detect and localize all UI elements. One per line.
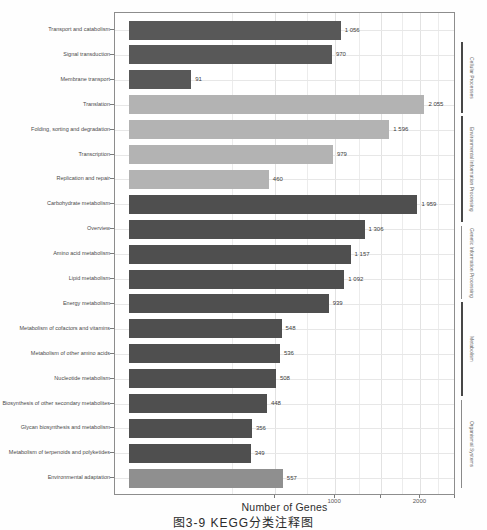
category-axis-tick [110, 178, 114, 179]
bar [129, 145, 333, 164]
category-label: Energy metabolism [0, 300, 110, 306]
bar-value-label: 460 [273, 176, 283, 183]
category-label: Environmental adaptation [0, 474, 110, 480]
category-label: Signal transduction [0, 51, 110, 57]
category-axis-tick [110, 427, 114, 428]
bar [129, 294, 329, 313]
bar-value-label: 91 [195, 76, 202, 83]
category-axis-tick [110, 79, 114, 80]
bar [129, 220, 365, 239]
category-label: Amino acid metabolism [0, 250, 110, 256]
category-label: Replication and repair [0, 175, 110, 181]
group-bracket-label: Cellular Processes [466, 42, 478, 113]
bar-value-label: 1 157 [355, 251, 370, 258]
bar-value-label: 1 092 [348, 276, 363, 283]
bar-value-label: 356 [256, 425, 266, 432]
category-label: Nucleotide metabolism [0, 375, 110, 381]
category-axis-tick [110, 29, 114, 30]
category-label: Metabolism of terpenoids and polyketides [0, 449, 110, 455]
bar [129, 369, 276, 388]
figure-caption: 图3-9 KEGG分类注释图 [0, 513, 487, 530]
category-label: Lipid metabolism [0, 275, 110, 281]
group-bracket-line [461, 400, 462, 488]
group-bracket-line [461, 302, 463, 396]
bar-value-label: 548 [286, 325, 296, 332]
bar-value-label: 536 [284, 350, 294, 357]
bar [129, 70, 191, 89]
bar [129, 419, 252, 438]
group-bracket-label: Metabolism [466, 302, 478, 396]
bar-value-label: 448 [271, 400, 281, 407]
bar-value-label: 508 [280, 375, 290, 382]
group-bracket-label: Genetic Information Processing [466, 226, 478, 299]
category-axis-tick [110, 278, 114, 279]
bar-value-label: 979 [337, 151, 347, 158]
category-axis-tick [110, 129, 114, 130]
category-label: Translation [0, 101, 110, 107]
category-label: Transcription [0, 151, 110, 157]
category-label: Membrane transport [0, 76, 110, 82]
bar [129, 195, 417, 214]
category-axis-tick [110, 378, 114, 379]
group-bracket-line [461, 42, 463, 113]
category-axis-tick [110, 353, 114, 354]
bar [129, 170, 269, 189]
bar-value-label: 349 [255, 450, 265, 457]
category-axis-tick [110, 154, 114, 155]
group-bracket-label: Environmental Information Processing [466, 116, 478, 222]
category-axis-tick [110, 303, 114, 304]
category-label: Folding, sorting and degradation [0, 126, 110, 132]
x-axis-tick [274, 495, 275, 498]
bar [129, 469, 283, 488]
category-axis-tick [110, 203, 114, 204]
category-axis-tick [110, 328, 114, 329]
bar [129, 444, 251, 463]
category-label: Transport and catabolism [0, 26, 110, 32]
category-axis-tick [110, 104, 114, 105]
bar [129, 45, 332, 64]
bar [129, 21, 341, 40]
bar [129, 270, 344, 289]
group-bracket-line [461, 116, 463, 222]
group-bracket-line [461, 226, 462, 299]
bar-value-label: 970 [336, 51, 346, 58]
category-label: Metabolism of cofactors and vitamins [0, 325, 110, 331]
bar-value-label: 2 055 [428, 101, 443, 108]
bar [129, 120, 389, 139]
category-axis-tick [110, 228, 114, 229]
bar-value-label: 1 056 [345, 27, 360, 34]
category-axis-tick [110, 54, 114, 55]
category-label: Metabolism of other amino acids [0, 350, 110, 356]
category-label: Carbohydrate metabolism [0, 200, 110, 206]
bar [129, 344, 280, 363]
bar [129, 319, 282, 338]
x-axis-tick [454, 495, 455, 498]
bar [129, 95, 424, 114]
bar-value-label: 1 959 [421, 201, 436, 208]
category-label: Glycan biosynthesis and metabolism [0, 424, 110, 430]
bar-value-label: 557 [287, 475, 297, 482]
x-axis-tick [380, 495, 381, 498]
category-label: Overview [0, 225, 110, 231]
category-axis-tick [110, 452, 114, 453]
bar [129, 394, 267, 413]
group-bracket-label: Organismal Systems [466, 400, 478, 488]
category-axis-tick [110, 477, 114, 478]
category-label: Biosynthesis of other secondary metaboli… [0, 400, 110, 406]
category-axis-tick [110, 403, 114, 404]
x-axis-title: Number of Genes [114, 501, 455, 513]
plot-area: 1 056970912 0551 5969794601 9591 3061 15… [114, 12, 455, 495]
bar-value-label: 939 [333, 300, 343, 307]
category-axis-tick [110, 253, 114, 254]
bar-value-label: 1 306 [369, 226, 384, 233]
bar-value-label: 1 596 [393, 126, 408, 133]
bar [129, 245, 351, 264]
